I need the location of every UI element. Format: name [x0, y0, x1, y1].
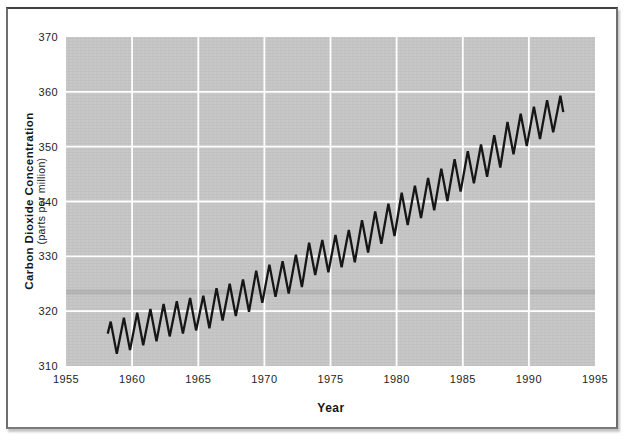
y-tick-label: 350 [8, 140, 58, 154]
x-tick-label: 1990 [516, 372, 542, 386]
y-tick-label: 360 [8, 85, 58, 99]
x-tick-label: 1960 [119, 372, 145, 386]
y-tick-label: 330 [8, 249, 58, 263]
x-tick-label: 1995 [582, 372, 608, 386]
co2-line [108, 96, 564, 354]
x-tick-label: 1975 [317, 372, 343, 386]
page-background: Carbon Dioxide Concentration (parts per … [0, 0, 629, 445]
figure-frame: Carbon Dioxide Concentration (parts per … [6, 7, 618, 429]
x-tick-label: 1955 [53, 372, 79, 386]
y-tick-label: 320 [8, 304, 58, 318]
y-tick-label: 310 [8, 359, 58, 373]
co2-chart-svg [66, 37, 595, 366]
x-tick-label: 1985 [450, 372, 476, 386]
x-tick-label: 1970 [251, 372, 277, 386]
plot-area [66, 37, 595, 366]
y-tick-label: 370 [8, 30, 58, 44]
x-axis-title: Year [317, 401, 344, 415]
y-tick-label: 340 [8, 195, 58, 209]
x-tick-label: 1980 [384, 372, 410, 386]
x-tick-label: 1965 [185, 372, 211, 386]
